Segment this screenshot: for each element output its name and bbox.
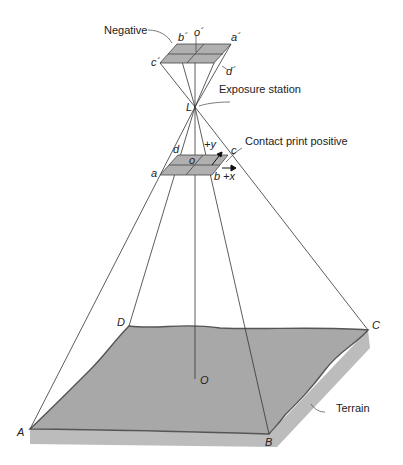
a-prime-label: a´ bbox=[231, 31, 241, 43]
D-label: D bbox=[117, 316, 125, 328]
o-label: o bbox=[189, 154, 195, 166]
plus-x-label: +x bbox=[223, 170, 235, 182]
o-prime-label: o´ bbox=[194, 26, 204, 38]
a-label: a bbox=[151, 167, 157, 179]
b-prime-label: b´ bbox=[178, 31, 188, 43]
c-label: c bbox=[231, 144, 237, 156]
L-label: L bbox=[186, 101, 192, 113]
O-label: O bbox=[200, 374, 209, 386]
negative-label: Negative bbox=[104, 24, 147, 36]
terrain-surface bbox=[30, 326, 368, 434]
c-prime-label: c´ bbox=[151, 56, 161, 68]
exposure-station-label: Exposure station bbox=[219, 83, 301, 95]
A-label: A bbox=[16, 426, 24, 438]
plus-y-label: +y bbox=[204, 138, 217, 150]
contact-print-label: Contact print positive bbox=[245, 135, 348, 147]
terrain-label: Terrain bbox=[336, 402, 370, 414]
b-label: b bbox=[214, 170, 220, 182]
d-label: d bbox=[173, 143, 180, 155]
B-label: B bbox=[265, 436, 272, 448]
aerial-photo-geometry-diagram: Negative b´ o´ a´ c´ d´ Exposure station… bbox=[0, 0, 403, 465]
C-label: C bbox=[372, 319, 380, 331]
negative-plane bbox=[160, 44, 231, 63]
d-prime-label: d´ bbox=[226, 65, 236, 77]
